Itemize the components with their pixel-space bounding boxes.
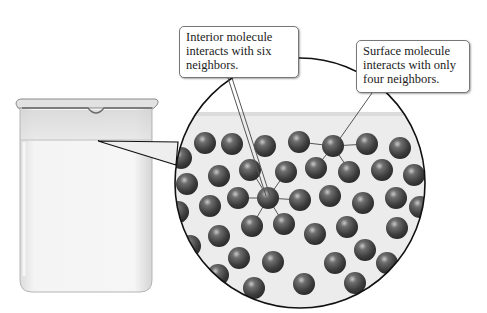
callout-interior-molecule: Interior molecule interacts with six nei… — [179, 26, 299, 78]
callout-surface-molecule: Surface molecule interacts with only fou… — [356, 40, 470, 93]
magnified-view — [167, 58, 440, 312]
beaker — [16, 99, 158, 292]
